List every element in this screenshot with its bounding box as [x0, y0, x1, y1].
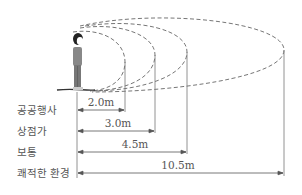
- distance-3m: 3.0m: [105, 117, 132, 129]
- personal-space-diagram: 공공행사 상점가 보통 쾌적한 환경 2.0m 3.0m 4.5m 10.5m: [0, 0, 302, 195]
- distance-10-5m: 10.5m: [161, 159, 194, 171]
- diagram-graphic: [0, 0, 302, 195]
- space-ellipse-10.5m: [80, 18, 284, 92]
- row-label-public-event: 공공행사: [17, 104, 57, 116]
- row-label-normal: 보통: [17, 146, 37, 158]
- row-label-comfortable: 쾌적한 환경: [17, 167, 70, 179]
- distance-2m: 2.0m: [88, 96, 115, 108]
- distance-4-5m: 4.5m: [122, 138, 149, 150]
- person-icon: [73, 33, 83, 90]
- row-label-shopping-street: 상점가: [17, 125, 47, 137]
- space-ellipse-3m: [80, 27, 155, 91]
